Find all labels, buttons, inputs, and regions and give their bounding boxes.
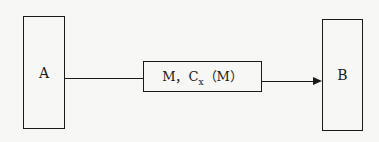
edge-channel-to-b [261,81,315,82]
node-channel-label: M，Cx（M） [162,66,243,87]
edge-a-to-channel [64,78,144,79]
node-channel: M，Cx（M） [143,61,262,92]
node-b-label: B [337,67,347,83]
node-a-label: A [39,65,49,81]
arrowhead-icon [313,77,322,85]
node-b: B [322,19,363,131]
node-a: A [23,16,65,129]
